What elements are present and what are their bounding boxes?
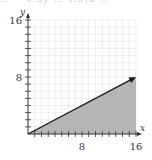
y-tick-label-8: 8 [16,72,22,83]
x-axis-label: x [140,123,145,133]
inequality-graph: 8 16 8 16 x y [0,0,152,160]
y-axis-label: y [19,7,26,17]
x-tick-label-8: 8 [79,141,85,152]
x-tick-label-16: 16 [130,141,143,152]
